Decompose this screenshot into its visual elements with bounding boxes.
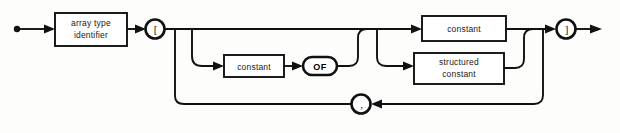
array-type-identifier-label-line1: array type [71, 18, 111, 28]
syntax-diagram-canvas: array type identifier [ constant OF [0, 0, 620, 133]
arrowhead-into-close-bracket [545, 24, 556, 33]
structured-constant-label-line1: structured [439, 57, 479, 67]
of-keyword-label: OF [313, 62, 326, 72]
structured-constant-label-line2: constant [442, 69, 476, 79]
arrowhead-into-structured-constant [403, 61, 414, 70]
arrowhead-into-of [292, 61, 303, 70]
arrowhead-into-identifier [44, 24, 55, 33]
comma-label: , [360, 98, 363, 110]
start-dot [14, 26, 20, 32]
open-bracket-label: [ [154, 23, 158, 35]
track-structured-constant-merge-up [504, 29, 533, 68]
value-constant-label: constant [447, 24, 481, 34]
railroad-diagram: array type identifier [ constant OF [0, 0, 620, 133]
track-to-structured-constant [377, 29, 403, 66]
arrowhead-into-repeat-constant [213, 61, 224, 70]
arrowhead-exit [590, 24, 602, 33]
repeat-constant-label: constant [237, 62, 271, 72]
arrowhead-into-comma [371, 99, 382, 108]
array-type-identifier-label-line2: identifier [74, 30, 108, 40]
close-bracket-label: ] [565, 23, 569, 35]
track-of-rejoin-to-main-rail [337, 29, 367, 66]
track-to-repeat-constant [192, 29, 213, 66]
arrowhead-into-value-constant [411, 24, 422, 33]
